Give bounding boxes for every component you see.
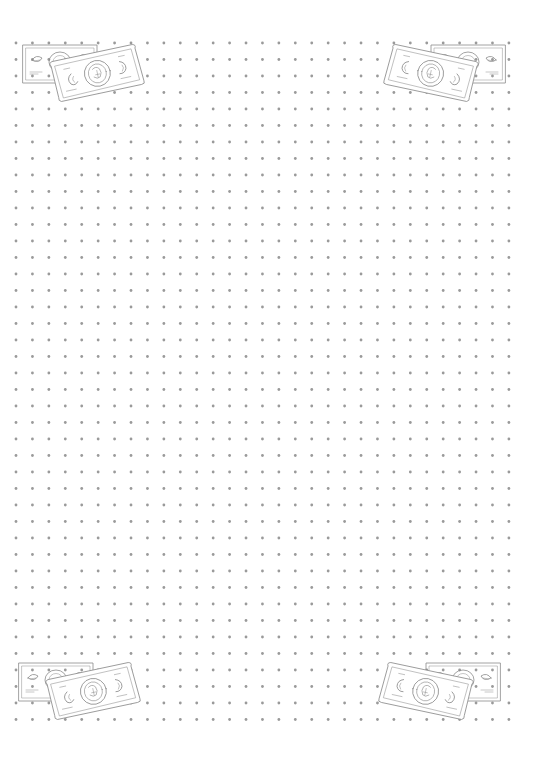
grid-dot xyxy=(179,421,182,424)
grid-dot xyxy=(195,685,198,688)
grid-dot xyxy=(80,273,83,276)
grid-dot xyxy=(327,504,330,507)
grid-dot xyxy=(245,586,248,589)
grid-dot xyxy=(327,190,330,193)
grid-dot xyxy=(31,504,34,507)
grid-dot xyxy=(458,240,461,243)
grid-dot xyxy=(228,58,231,61)
grid-dot xyxy=(343,421,346,424)
grid-dot xyxy=(47,438,50,441)
grid-dot xyxy=(458,603,461,606)
grid-dot xyxy=(261,256,264,259)
grid-dot xyxy=(64,586,67,589)
grid-dot xyxy=(294,190,297,193)
grid-dot xyxy=(376,124,379,127)
grid-dot xyxy=(310,256,313,259)
grid-dot xyxy=(228,289,231,292)
grid-dot xyxy=(228,339,231,342)
grid-dot xyxy=(97,256,100,259)
grid-dot xyxy=(245,603,248,606)
grid-dot xyxy=(15,537,18,540)
grid-dot xyxy=(458,207,461,210)
grid-dot xyxy=(442,124,445,127)
grid-dot xyxy=(245,339,248,342)
grid-dot xyxy=(475,372,478,375)
grid-dot xyxy=(228,273,231,276)
grid-dot xyxy=(343,157,346,160)
grid-dot xyxy=(212,685,215,688)
grid-dot xyxy=(228,570,231,573)
grid-dot xyxy=(113,405,116,408)
grid-dot xyxy=(179,157,182,160)
grid-dot xyxy=(425,223,428,226)
grid-dot xyxy=(31,388,34,391)
grid-dot xyxy=(228,355,231,358)
grid-dot xyxy=(327,570,330,573)
grid-dot xyxy=(228,75,231,78)
grid-dot xyxy=(310,322,313,325)
grid-dot xyxy=(130,256,133,259)
grid-dot xyxy=(458,174,461,177)
grid-dot xyxy=(425,141,428,144)
grid-dot xyxy=(310,702,313,705)
grid-dot xyxy=(508,355,511,358)
grid-dot xyxy=(64,157,67,160)
grid-dot xyxy=(195,619,198,622)
grid-dot xyxy=(343,75,346,78)
grid-dot xyxy=(179,553,182,556)
grid-dot xyxy=(146,289,149,292)
grid-dot xyxy=(425,438,428,441)
grid-dot xyxy=(80,454,83,457)
grid-dot xyxy=(327,619,330,622)
grid-dot xyxy=(15,190,18,193)
grid-dot xyxy=(31,520,34,523)
grid-dot xyxy=(212,405,215,408)
grid-dot xyxy=(294,570,297,573)
grid-dot xyxy=(327,669,330,672)
grid-dot xyxy=(15,91,18,94)
grid-dot xyxy=(508,405,511,408)
grid-dot xyxy=(458,586,461,589)
grid-dot xyxy=(376,58,379,61)
grid-dot xyxy=(376,520,379,523)
grid-dot xyxy=(392,570,395,573)
grid-dot xyxy=(458,504,461,507)
grid-dot xyxy=(195,652,198,655)
grid-dot xyxy=(360,157,363,160)
grid-dot xyxy=(64,322,67,325)
grid-dot xyxy=(360,421,363,424)
grid-dot xyxy=(294,256,297,259)
grid-dot xyxy=(376,487,379,490)
grid-dot xyxy=(343,586,346,589)
grid-dot xyxy=(64,471,67,474)
grid-dot xyxy=(261,421,264,424)
grid-dot xyxy=(376,570,379,573)
grid-dot xyxy=(475,586,478,589)
grid-dot xyxy=(277,223,280,226)
grid-dot xyxy=(409,520,412,523)
grid-dot xyxy=(343,603,346,606)
grid-dot xyxy=(409,273,412,276)
grid-dot xyxy=(425,256,428,259)
grid-dot xyxy=(491,273,494,276)
grid-dot xyxy=(475,504,478,507)
grid-dot xyxy=(261,537,264,540)
grid-dot xyxy=(146,157,149,160)
grid-dot xyxy=(425,157,428,160)
grid-dot xyxy=(458,388,461,391)
grid-dot xyxy=(146,75,149,78)
grid-dot xyxy=(195,669,198,672)
grid-dot xyxy=(195,42,198,45)
grid-dot xyxy=(360,289,363,292)
grid-dot xyxy=(491,421,494,424)
grid-dot xyxy=(195,718,198,721)
grid-dot xyxy=(327,75,330,78)
grid-dot xyxy=(376,207,379,210)
grid-dot xyxy=(294,454,297,457)
grid-dot xyxy=(475,322,478,325)
grid-dot xyxy=(146,421,149,424)
grid-dot xyxy=(327,405,330,408)
grid-dot xyxy=(277,520,280,523)
grid-dot xyxy=(294,306,297,309)
grid-dot xyxy=(508,504,511,507)
